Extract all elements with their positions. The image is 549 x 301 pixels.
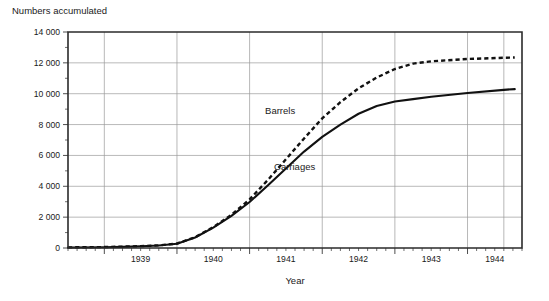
series-label-barrels: Barrels	[265, 105, 295, 116]
y-tick-label: 12 000	[34, 58, 61, 68]
chart-title: Numbers accumulated	[12, 5, 107, 16]
y-tick-label: 14 000	[34, 27, 61, 37]
y-tick-label: 0	[55, 243, 60, 253]
x-tick-label: 1943	[422, 254, 441, 264]
series-annotations: BarrelsCarriages	[265, 105, 315, 172]
y-axis-tick-labels: 02 0004 0006 0008 00010 00012 00014 000	[34, 27, 61, 253]
x-tick-label: 1944	[485, 254, 504, 264]
y-tick-label: 6 000	[38, 150, 60, 160]
y-tick-label: 8 000	[38, 120, 60, 130]
y-tick-label: 10 000	[34, 89, 61, 99]
y-tick-label: 2 000	[38, 212, 60, 222]
x-tick-label: 1942	[349, 254, 368, 264]
x-tick-label: 1941	[276, 254, 295, 264]
x-tick-label: 1939	[131, 254, 150, 264]
x-axis-title: Year	[285, 275, 304, 286]
x-tick-label: 1940	[204, 254, 223, 264]
chart-container: Numbers accumulated 02 0004 0006 0008 00…	[0, 0, 549, 301]
plot-frame	[68, 32, 522, 248]
x-axis-tick-labels: 193919401941194219431944	[131, 254, 504, 264]
line-chart: Numbers accumulated 02 0004 0006 0008 00…	[0, 0, 549, 301]
horizontal-gridlines	[68, 63, 522, 217]
y-tick-label: 4 000	[38, 181, 60, 191]
series-label-carriages: Carriages	[274, 161, 315, 172]
series-line-barrels	[68, 57, 515, 247]
series-lines	[68, 57, 515, 247]
